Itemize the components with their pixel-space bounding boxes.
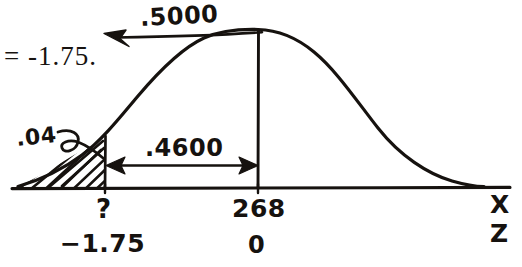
x-tick-label-unknown: ? (96, 194, 112, 224)
x-axis-label: X (490, 190, 510, 219)
z-tick-label-zero: 0 (248, 231, 265, 259)
z-tick-label-minus-1-75: −1.75 (60, 229, 145, 258)
area-5000-arrow (104, 30, 262, 47)
diagram-canvas: = -1.75. .5000 .04 .4600 ? 268 −1.75 0 X… (0, 0, 522, 267)
equation-label: = -1.75. (4, 41, 97, 72)
area-5000-label: .5000 (139, 0, 219, 32)
area-4600-label: .4600 (145, 134, 223, 162)
mean-vertical-line (258, 30, 259, 188)
x-tick-label-268: 268 (232, 194, 286, 223)
area-04-label: .04 (15, 122, 58, 151)
z-boundary-vertical-line (105, 136, 106, 188)
z-axis-label: Z (490, 219, 509, 248)
